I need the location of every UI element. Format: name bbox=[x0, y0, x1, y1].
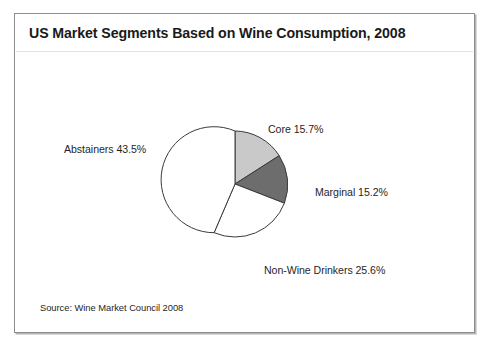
pie-label-marginal: Marginal 15.2% bbox=[315, 186, 388, 198]
pie-label-abstainers: Abstainers 43.5% bbox=[64, 143, 146, 155]
pie-slices bbox=[161, 127, 288, 237]
pie-label-non-wine-drinkers: Non-Wine Drinkers 25.6% bbox=[264, 264, 385, 276]
source-note: Source: Wine Market Council 2008 bbox=[40, 302, 183, 313]
pie-label-core: Core 15.7% bbox=[268, 123, 323, 135]
pie-chart-svg bbox=[15, 14, 474, 332]
figure-frame: US Market Segments Based on Wine Consump… bbox=[14, 13, 475, 333]
pie-chart-plot-area: Core 15.7% Marginal 15.2% Non-Wine Drink… bbox=[15, 14, 474, 332]
